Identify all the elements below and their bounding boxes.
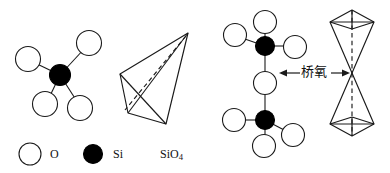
bottom-tetra-base-left-edge xyxy=(330,117,352,124)
right-ball-stick-group xyxy=(223,11,307,158)
legend-marker-si-icon xyxy=(84,145,103,164)
bridging-oxygen-label: 桥氧 xyxy=(301,65,327,78)
left-ball-stick-group xyxy=(16,31,102,121)
atom-o-lower-left xyxy=(223,109,246,132)
arrow-left-head xyxy=(279,70,287,77)
bottom-tetra-base-right-edge xyxy=(352,117,374,124)
atom-o-lower-left xyxy=(33,92,58,117)
top-tetra-base-left-edge xyxy=(330,22,352,29)
atom-o-upper-right xyxy=(284,36,307,59)
legend-markers xyxy=(19,143,103,165)
top-tetra-base-right-edge xyxy=(352,22,374,29)
legend-label-sio4: SiO4 xyxy=(160,148,183,162)
atom-o-lower-right xyxy=(282,124,305,147)
atom-o-upper-right xyxy=(77,31,102,56)
arrow-right-head xyxy=(342,70,350,77)
atom-o-lower-right xyxy=(68,96,93,121)
atom-o-lower-bottom xyxy=(253,135,276,158)
legend-label-o: O xyxy=(50,148,59,160)
atom-o-upper-top xyxy=(254,11,277,34)
tetra-edge-left-bottom xyxy=(120,74,166,124)
atom-si-upper xyxy=(256,37,275,56)
atom-o-left xyxy=(16,47,41,72)
legend-marker-o-icon xyxy=(19,143,41,165)
legend-label-si: Si xyxy=(113,148,123,160)
atom-o-upper-left xyxy=(224,24,247,47)
atom-si-center xyxy=(50,65,71,86)
atom-o-bridging xyxy=(254,72,277,95)
legend-label-sio4-subscript: 4 xyxy=(179,152,183,162)
legend-label-sio4-base: SiO xyxy=(160,147,179,161)
atom-si-lower xyxy=(256,111,275,130)
left-tetrahedron-group xyxy=(120,33,188,124)
figure-root: 桥氧 O Si SiO4 xyxy=(0,0,390,173)
